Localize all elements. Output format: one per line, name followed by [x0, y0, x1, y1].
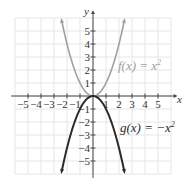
f-label-text: f(x) = x — [118, 58, 157, 73]
g-label-text: g(x) = −x — [120, 120, 171, 135]
y-tick-label: 3 — [85, 51, 91, 63]
x-tick-label: 4 — [142, 98, 148, 110]
curve-arrow-icon — [60, 18, 64, 23]
x-tick-label: 3 — [129, 98, 135, 110]
curve-arrow-icon — [122, 18, 126, 23]
x-tick-label: −5 — [17, 98, 29, 110]
y-axis-arrow-icon — [91, 10, 95, 14]
x-tick-label: −3 — [43, 98, 55, 110]
y-tick-label: 5 — [85, 25, 91, 37]
y-tick-label: −3 — [78, 129, 90, 141]
g-function-label: g(x) = −x2 — [120, 120, 175, 135]
f-function-label: f(x) = x2 — [118, 58, 161, 73]
y-tick-label: 4 — [85, 38, 91, 50]
f-label-exponent: 2 — [157, 58, 161, 67]
g-label-exponent: 2 — [171, 120, 175, 129]
y-tick-label: −2 — [78, 116, 90, 128]
y-axis-label: y — [83, 5, 89, 17]
y-tick-label: −5 — [78, 155, 90, 167]
x-tick-label: 2 — [116, 98, 122, 110]
parabola-chart: −5−4−3−2−112345−5−4−3−2−112345 x y f(x) … — [0, 0, 194, 187]
x-tick-label: −4 — [30, 98, 42, 110]
y-tick-label: −4 — [78, 142, 90, 154]
x-tick-label: −2 — [56, 98, 68, 110]
curve-arrow-icon — [60, 169, 64, 174]
curve-arrow-icon — [122, 169, 126, 174]
x-axis-label: x — [176, 93, 182, 105]
y-tick-label: 1 — [85, 77, 91, 89]
axes — [11, 10, 177, 178]
x-tick-label: 5 — [155, 98, 161, 110]
y-tick-label: 2 — [85, 64, 91, 76]
